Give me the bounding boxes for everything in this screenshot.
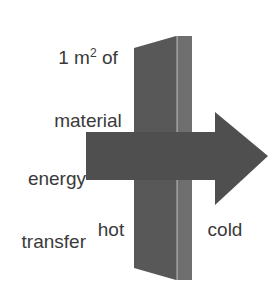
thermal-conductivity-diagram: 1 m2 of material energy transfer hot col… [0, 0, 274, 294]
label-energy-line1: energy [2, 168, 86, 189]
label-cold-side: cold [196, 219, 254, 240]
label-material-line1: 1 m2 of [0, 47, 176, 68]
label-material-suffix: of [97, 47, 118, 68]
arrow-head-neck [192, 132, 216, 180]
label-hot-side: hot [86, 219, 136, 240]
arrow-head [215, 112, 268, 205]
label-energy-transfer: energy transfer [2, 126, 86, 294]
label-material-prefix: 1 m [58, 47, 90, 68]
label-energy-line2: transfer [2, 231, 86, 252]
label-material-superscript: 2 [90, 46, 97, 60]
